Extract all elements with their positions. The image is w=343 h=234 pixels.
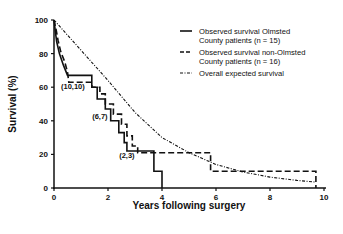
legend-label: Observed survival Olmsted (199, 27, 290, 36)
y-tick-label: 40 (39, 117, 48, 126)
axes: 0204060801000246810 (35, 16, 329, 202)
series-line-solid (54, 20, 162, 188)
x-axis-title: Years following surgery (133, 200, 246, 211)
legend-label: Observed survival non-Olmsted (199, 48, 305, 57)
survival-chart: 0204060801000246810 (10,10)(6,7)(2,3) Ye… (0, 0, 343, 234)
y-tick-label: 60 (39, 83, 48, 92)
legend-label: County patients (n = 15) (199, 36, 281, 45)
annotations: (10,10)(6,7)(2,3) (61, 82, 135, 160)
risk-annotation: (6,7) (92, 112, 108, 121)
legend-label: Overall expected survival (199, 69, 284, 78)
x-tick-label: 10 (320, 193, 329, 202)
y-axis-title: Survival (%) (7, 75, 18, 132)
series-line-dashed (54, 20, 316, 188)
y-tick-label: 0 (44, 184, 49, 193)
x-tick-label: 2 (106, 193, 111, 202)
risk-annotation: (10,10) (61, 82, 85, 91)
series-group (54, 20, 316, 188)
x-tick-label: 0 (52, 193, 57, 202)
y-tick-label: 100 (35, 16, 49, 25)
y-tick-label: 80 (39, 50, 48, 59)
risk-annotation: (2,3) (119, 151, 135, 160)
legend-label: County patients (n = 16) (199, 57, 281, 66)
legend: Observed survival OlmstedCounty patients… (180, 27, 305, 78)
y-tick-label: 20 (39, 150, 48, 159)
x-tick-label: 8 (268, 193, 273, 202)
